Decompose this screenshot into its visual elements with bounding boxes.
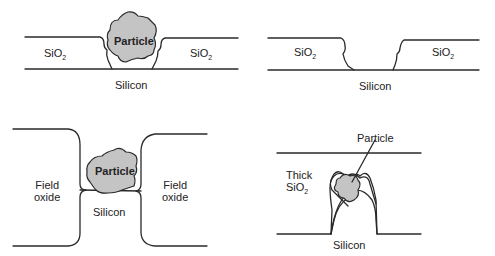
sio2-text: SiO bbox=[190, 47, 208, 59]
particle-shape bbox=[334, 174, 360, 201]
subscript-2: 2 bbox=[450, 53, 454, 60]
sio2-label-right: SiO2 bbox=[432, 46, 454, 58]
silicon-label: Silicon bbox=[93, 206, 125, 218]
subscript-2: 2 bbox=[304, 188, 308, 195]
field-text: Field bbox=[162, 179, 188, 191]
silicon-label: Silicon bbox=[359, 80, 391, 92]
sio2-label-right: SiO2 bbox=[190, 47, 212, 59]
particle-callout-label: Particle bbox=[357, 132, 394, 144]
thick-text: Thick bbox=[286, 169, 312, 181]
field-text: Field bbox=[34, 179, 60, 191]
subscript-2: 2 bbox=[62, 54, 66, 61]
subscript-2: 2 bbox=[312, 53, 316, 60]
oxide-top-left bbox=[25, 37, 112, 69]
particle-label: Particle bbox=[114, 35, 154, 47]
sio2-text: SiO bbox=[44, 47, 62, 59]
thick-sio2-label: Thick SiO2 bbox=[286, 169, 312, 193]
sio2-line: SiO2 bbox=[286, 181, 312, 193]
oxide-text: oxide bbox=[34, 191, 60, 203]
field-oxide-right-label: Field oxide bbox=[162, 179, 188, 203]
sio2-text: SiO bbox=[286, 181, 304, 193]
silicon-surface bbox=[277, 196, 348, 234]
field-oxide-left-label: Field oxide bbox=[34, 179, 60, 203]
sio2-label-left: SiO2 bbox=[294, 46, 316, 58]
subscript-2: 2 bbox=[208, 54, 212, 61]
diagram-canvas bbox=[0, 0, 495, 256]
oxide-text: oxide bbox=[162, 191, 188, 203]
particle-callout-line bbox=[352, 140, 375, 182]
sio2-label-left: SiO2 bbox=[44, 47, 66, 59]
silicon-label: Silicon bbox=[115, 79, 147, 91]
silicon-label: Silicon bbox=[333, 239, 365, 251]
sio2-text: SiO bbox=[432, 46, 450, 58]
particle-label: Particle bbox=[95, 165, 135, 177]
sio2-text: SiO bbox=[294, 46, 312, 58]
